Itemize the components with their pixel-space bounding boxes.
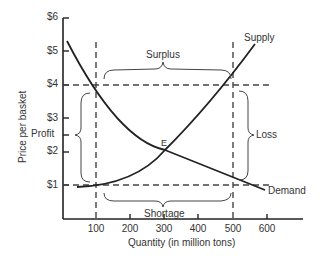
demand-label: Demand	[268, 186, 306, 196]
loss-label: Loss	[256, 130, 277, 140]
surplus-brace	[104, 62, 231, 79]
profit-label: Profit	[31, 129, 54, 139]
x-tick-label: 200	[115, 224, 145, 234]
equilibrium-label: E	[161, 139, 167, 148]
shortage-label: Shortage	[144, 209, 185, 219]
x-tick-label: 400	[183, 224, 213, 234]
x-tick-label: 300	[149, 224, 179, 234]
supply-label: Supply	[244, 33, 275, 43]
y-tick-label: $1	[36, 180, 58, 190]
y-tick-label: $4	[36, 79, 58, 89]
x-tick-label: 100	[81, 224, 111, 234]
supply-curve	[77, 44, 255, 187]
loss-brace	[239, 91, 254, 180]
y-tick-label: $2	[36, 146, 58, 156]
shortage-brace	[104, 193, 231, 207]
y-axis-title: Price per basket	[18, 91, 28, 163]
x-tick-label: 600	[252, 224, 282, 234]
y-tick-label: $3	[36, 113, 58, 123]
y-tick-label: $6	[36, 12, 58, 22]
y-tick-label: $5	[36, 46, 58, 56]
profit-brace	[75, 93, 90, 182]
x-axis-title: Quantity (in million tons)	[128, 238, 235, 248]
surplus-label: Surplus	[146, 50, 180, 60]
x-tick-label: 500	[218, 224, 248, 234]
